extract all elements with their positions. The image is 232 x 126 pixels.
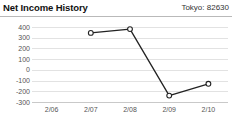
- data-point-marker: [128, 27, 133, 32]
- data-point-marker: [88, 31, 93, 36]
- chart-plot-area: 4003002001000-100-200-300 2/062/072/082/…: [0, 18, 232, 126]
- series-line: [91, 29, 209, 96]
- chart-title: Net Income History: [0, 0, 88, 13]
- chart-header: Net Income History Tokyo: 82630: [0, 0, 232, 17]
- ticker-label: Tokyo: 82630: [181, 0, 232, 12]
- net-income-history-widget: Net Income History Tokyo: 82630 40030020…: [0, 0, 232, 126]
- data-point-marker: [167, 93, 172, 98]
- data-series-layer: [0, 18, 232, 126]
- data-point-marker: [206, 81, 211, 86]
